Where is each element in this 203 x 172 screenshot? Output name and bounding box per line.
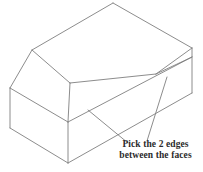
top-back-right-edge <box>113 3 192 48</box>
caption-line-2: between the faces <box>108 150 203 161</box>
caption-line-1: Pick the 2 edges <box>108 139 203 150</box>
chamfer-left-edge <box>10 50 32 88</box>
caption-block: Pick the 2 edges between the faces <box>108 139 203 161</box>
diagram-canvas: Pick the 2 edges between the faces <box>0 0 203 172</box>
top-back-left-ridge <box>32 3 113 50</box>
top-ridge-front-long <box>70 74 156 83</box>
front-top-long-edge <box>68 57 192 122</box>
top-face-front-ridge <box>32 50 70 83</box>
chamfer-front-edge <box>68 83 70 122</box>
chamfer-bottom-ridge <box>10 88 68 122</box>
left-face-bottom <box>10 128 68 163</box>
top-right-front-ridge <box>156 48 192 74</box>
chamfer-right-short-edge <box>156 57 192 74</box>
leader-line-group <box>88 77 167 143</box>
